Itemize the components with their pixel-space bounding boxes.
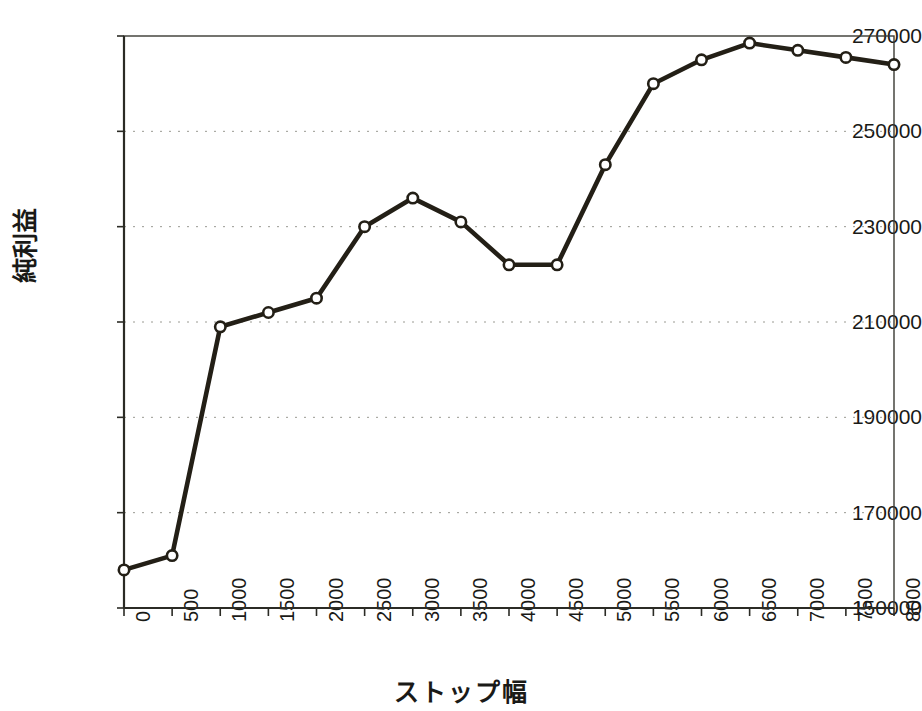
data-point-marker — [552, 260, 562, 270]
data-point-marker — [793, 45, 803, 55]
data-point-marker — [696, 55, 706, 65]
data-point-marker — [744, 38, 754, 48]
x-axis-ticks — [124, 608, 894, 616]
data-point-marker — [600, 160, 610, 170]
data-point-marker — [167, 550, 177, 560]
data-point-marker — [841, 52, 851, 62]
data-point-marker — [311, 293, 321, 303]
data-point-marker — [889, 59, 899, 69]
data-point-marker — [504, 260, 514, 270]
data-point-marker — [263, 307, 273, 317]
data-point-marker — [408, 193, 418, 203]
data-line-series — [124, 43, 894, 570]
data-point-marker — [215, 322, 225, 332]
data-point-markers — [119, 38, 899, 575]
plot-area — [0, 0, 922, 711]
data-point-marker — [648, 79, 658, 89]
data-point-marker — [456, 217, 466, 227]
data-point-marker — [359, 222, 369, 232]
data-point-marker — [119, 565, 129, 575]
chart-figure: 純利益 ストップ幅 270000250000230000210000190000… — [0, 0, 922, 711]
